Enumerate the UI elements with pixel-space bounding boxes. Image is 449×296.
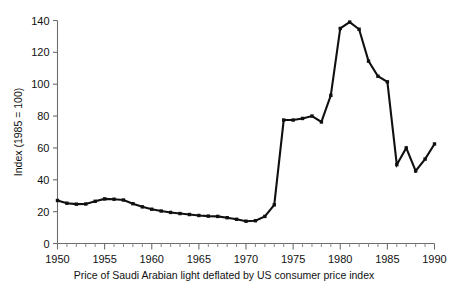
data-point-marker [348,20,351,23]
data-point-marker [159,209,162,212]
data-point-marker [339,27,342,30]
x-tick-label: 1970 [234,253,258,265]
x-tick-label: 1965 [187,253,211,265]
x-tick-label: 1980 [328,253,352,265]
y-tick-label: 0 [43,238,49,250]
x-tick-label: 1950 [45,253,69,265]
chart-figure: 020406080100120140 195019551960196519701… [0,0,449,296]
data-point-marker [112,198,115,201]
y-tick-label: 20 [37,206,49,218]
data-point-marker [178,212,181,215]
data-point-marker [282,118,285,121]
chart-caption: Price of Saudi Arabian light deflated by… [74,269,375,281]
x-tick-label: 1955 [92,253,116,265]
data-point-marker [386,80,389,83]
data-point-marker [197,214,200,217]
y-axis-title: Index (1985 = 100) [12,88,24,176]
x-tick-label: 1990 [422,253,446,265]
data-point-marker [291,118,294,121]
data-point-marker [414,169,417,172]
data-point-marker [357,28,360,31]
data-point-marker [131,202,134,205]
data-point-marker [207,214,210,217]
data-point-marker [301,117,304,120]
data-point-marker [263,215,266,218]
data-point-marker [273,203,276,206]
data-point-marker [150,208,153,211]
data-point-marker [405,146,408,149]
y-tick-label: 140 [31,15,49,27]
data-point-marker [65,202,68,205]
y-tick-label: 80 [37,110,49,122]
data-point-marker [103,197,106,200]
data-point-marker [75,202,78,205]
data-point-marker [188,213,191,216]
x-tick-label: 1985 [375,253,399,265]
data-point-marker [367,59,370,62]
x-tick-label: 1960 [140,253,164,265]
line-chart-svg: 020406080100120140 195019551960196519701… [0,0,449,296]
data-point-marker [141,205,144,208]
y-tick-label: 60 [37,142,49,154]
data-point-marker [244,220,247,223]
data-point-marker [56,199,59,202]
data-point-marker [122,198,125,201]
data-point-marker [423,157,426,160]
data-point-marker [169,211,172,214]
data-point-marker [235,218,238,221]
data-point-marker [84,202,87,205]
y-tick-label: 120 [31,46,49,58]
data-point-marker [254,219,257,222]
data-point-marker [94,200,97,203]
data-point-marker [320,120,323,123]
data-point-marker [216,215,219,218]
data-point-marker [225,216,228,219]
data-point-marker [395,163,398,166]
x-tick-label: 1975 [281,253,305,265]
y-tick-label: 40 [37,174,49,186]
data-point-marker [376,75,379,78]
data-point-marker [329,94,332,97]
data-point-marker [433,142,436,145]
data-point-marker [310,114,313,117]
y-tick-label: 100 [31,78,49,90]
